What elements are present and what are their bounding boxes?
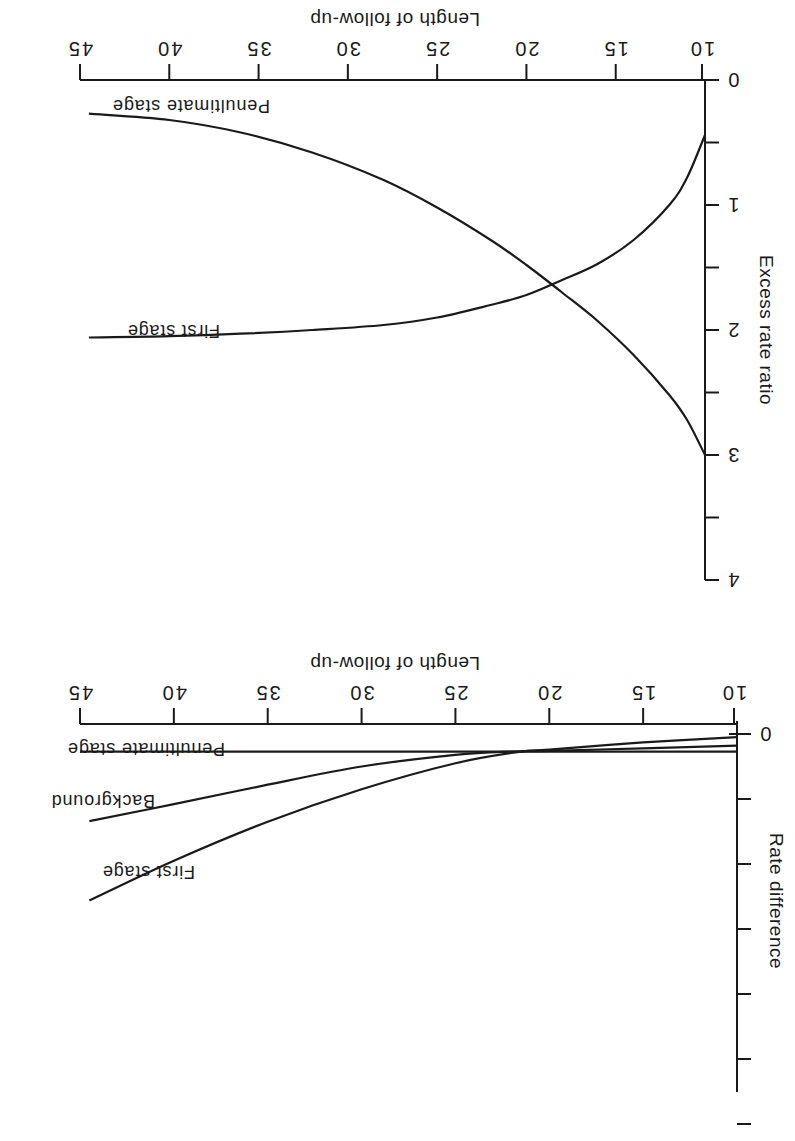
figure-svg: 1015202530354045 01234 Length of follow-… <box>0 0 795 1141</box>
bottom-x-tick-label: 35 <box>255 682 281 704</box>
top-x-tick-label: 35 <box>245 38 271 60</box>
top-x-tick-label: 20 <box>513 38 539 60</box>
bottom-y-ticks: 0 <box>729 723 772 1124</box>
bottom-x-tick-label: 20 <box>536 682 562 704</box>
excess-rate-ratio-chart: 1015202530354045 01234 Length of follow-… <box>67 9 777 591</box>
label-first-stage-bottom: First stage <box>102 862 195 882</box>
top-y-ticks: 01234 <box>705 69 740 591</box>
bottom-x-axis-label: Length of follow-up <box>310 653 480 674</box>
top-y-tick-label: 1 <box>726 194 739 216</box>
curve-first-stage-top <box>89 135 705 338</box>
curve-penultimate-stage-top <box>89 114 705 455</box>
label-first-stage-top: First stage <box>127 321 220 341</box>
label-penultimate-stage-top: Penultimate stage <box>112 96 270 116</box>
bottom-x-tick-label: 40 <box>161 682 187 704</box>
figure-stage: 1015202530354045 01234 Length of follow-… <box>0 0 795 1141</box>
top-x-tick-label: 10 <box>689 38 715 60</box>
top-y-axis-label: Excess rate ratio <box>756 255 777 405</box>
top-y-tick-label: 3 <box>726 444 739 466</box>
bottom-y-axis-label: Rate difference <box>766 833 787 969</box>
top-y-tick-label: 4 <box>726 569 739 591</box>
top-x-tick-label: 40 <box>156 38 182 60</box>
top-x-axis-label: Length of follow-up <box>310 9 480 30</box>
label-penultimate-stage-bottom: Penultimate stage <box>67 739 225 759</box>
bottom-x-tick-label: 15 <box>630 682 656 704</box>
bottom-x-ticks: 1015202530354045 <box>67 682 747 724</box>
top-y-tick-label: 0 <box>726 69 739 91</box>
top-x-ticks: 1015202530354045 <box>67 38 715 80</box>
rate-difference-chart: 1015202530354045 0 Length of follow-up R… <box>51 653 787 1124</box>
bottom-x-tick-label: 25 <box>442 682 468 704</box>
top-x-tick-label: 30 <box>335 38 361 60</box>
bottom-y-tick-label: 0 <box>758 723 771 745</box>
label-background-bottom: Background <box>51 791 155 811</box>
top-y-tick-label: 2 <box>726 319 739 341</box>
bottom-x-tick-label: 10 <box>721 682 747 704</box>
bottom-x-tick-label: 30 <box>348 682 374 704</box>
top-x-tick-label: 45 <box>67 38 93 60</box>
top-x-tick-label: 15 <box>603 38 629 60</box>
top-x-tick-label: 25 <box>424 38 450 60</box>
bottom-x-tick-label: 45 <box>67 682 93 704</box>
